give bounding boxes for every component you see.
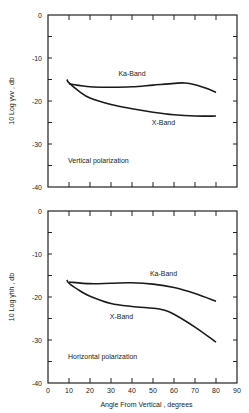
x-bandcurve: [67, 280, 216, 342]
y-tick-label: -10: [32, 55, 42, 62]
x-tick-label: 10: [65, 387, 73, 394]
y-tick-label: 0: [38, 12, 42, 19]
x-tick-label: 20: [86, 387, 94, 394]
x-tick-label: 40: [128, 387, 136, 394]
chart-canvas: 0-10-20-30-4010 Log γvv , dbKa-BandX-Ban…: [0, 0, 249, 413]
x-tick-label: 60: [170, 387, 178, 394]
y-tick-label: -30: [32, 141, 42, 148]
ka-band-label: Ka-Band: [118, 70, 145, 77]
ka-bandcurve: [69, 282, 216, 301]
y-axis-label: 10 Log γvv , db: [8, 77, 16, 125]
x-tick-label: 50: [149, 387, 157, 394]
x-tick-label: 30: [107, 387, 115, 394]
y-axis-label: 10 Log γhh , db: [8, 273, 16, 321]
x-tick-label: 0: [46, 387, 50, 394]
x-tick-label: 90: [233, 387, 241, 394]
x-band-label: X-Band: [152, 119, 175, 126]
y-tick-label: -40: [32, 380, 42, 387]
x-axis-label: Angle From Vertical , degrees: [100, 401, 193, 409]
ka-band-label: Ka-Band: [150, 270, 177, 277]
y-tick-label: 0: [38, 208, 42, 215]
x-tick-label: 70: [191, 387, 199, 394]
x-tick-label: 80: [212, 387, 220, 394]
y-tick-label: -10: [32, 251, 42, 258]
x-band-label: X-Band: [110, 313, 133, 320]
polarization-annotation: Vertical polarization: [68, 157, 129, 165]
y-tick-label: -20: [32, 98, 42, 105]
vertical-polarization-plot: 0-10-20-30-4010 Log γvv , dbKa-BandX-Ban…: [8, 12, 237, 191]
y-tick-label: -30: [32, 337, 42, 344]
y-tick-label: -20: [32, 294, 42, 301]
polarization-annotation: Horizontal polarization: [68, 353, 137, 361]
y-tick-label: -40: [32, 184, 42, 191]
horizontal-polarization-plot: 0-10-20-30-400102030405060708090Angle Fr…: [8, 208, 241, 410]
ka-bandcurve: [69, 83, 216, 93]
